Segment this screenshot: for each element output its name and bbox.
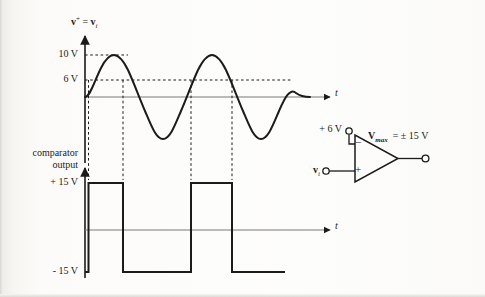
bottom-plot-y-axis-label-line2: output bbox=[4, 160, 78, 171]
top-plot-tick-6v: 6 V bbox=[28, 74, 78, 85]
circuit-output-label: Vmax = ± 15 V bbox=[368, 131, 428, 145]
circuit-reference-supply-label: + 6 V bbox=[292, 124, 342, 135]
circuit-input-label: vi bbox=[292, 165, 320, 179]
figure-root: v+ = vi 10 V 6 V t comparator output + 1… bbox=[0, 0, 485, 297]
top-plot-x-axis-label: t bbox=[335, 88, 338, 99]
bottom-plot-x-axis-label: t bbox=[335, 221, 338, 232]
input-terminal bbox=[323, 168, 329, 174]
output-terminal bbox=[422, 155, 429, 162]
top-plot-tick-10v: 10 V bbox=[28, 49, 78, 60]
top-plot-y-axis-label: v+ = vi bbox=[71, 16, 98, 31]
reference-supply-terminal bbox=[346, 128, 352, 134]
bottom-plot-tick-plus15v: + 15 V bbox=[20, 177, 78, 188]
opamp-noninverting-terminal-symbol: + bbox=[352, 164, 364, 175]
opamp-inverting-terminal-symbol: − bbox=[352, 137, 364, 148]
bottom-plot-y-axis-label-line1: comparator bbox=[4, 148, 78, 159]
comparator-output-square-wave bbox=[85, 183, 285, 272]
bottom-plot-tick-minus15v: - 15 V bbox=[20, 266, 78, 277]
